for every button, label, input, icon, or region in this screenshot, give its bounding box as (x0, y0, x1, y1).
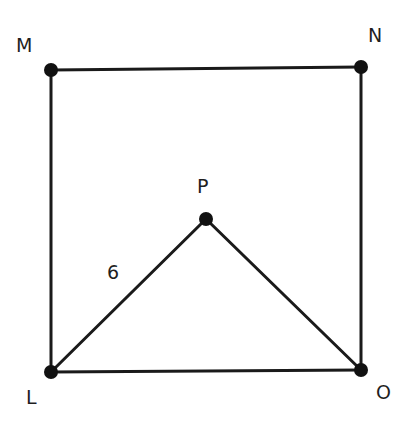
vertex-L (44, 365, 58, 379)
edge-MN (51, 67, 361, 70)
vertex-N (354, 60, 368, 74)
vertex-O (354, 363, 368, 377)
edge-LP (51, 219, 206, 372)
vertex-P (199, 212, 213, 226)
vertex-M (44, 63, 58, 77)
label-M: M (16, 34, 32, 56)
label-P: P (197, 175, 208, 197)
geometry-diagram: M N P L O 6 (0, 0, 407, 426)
label-O: O (376, 381, 391, 403)
edge-OL (51, 370, 361, 372)
edge-PO (206, 219, 361, 370)
edge-label-LP: 6 (107, 261, 119, 283)
label-N: N (368, 24, 382, 46)
label-L: L (26, 386, 37, 408)
